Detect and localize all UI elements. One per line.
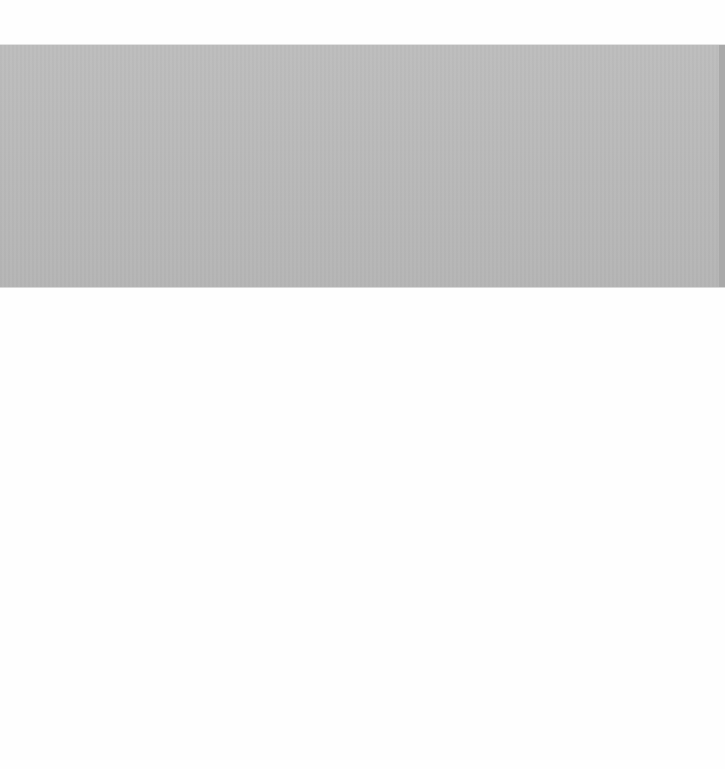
blank-page [0, 0, 725, 769]
empty-content-area [0, 287, 725, 769]
gray-banner-block [0, 45, 725, 287]
banner-right-edge [719, 45, 725, 287]
